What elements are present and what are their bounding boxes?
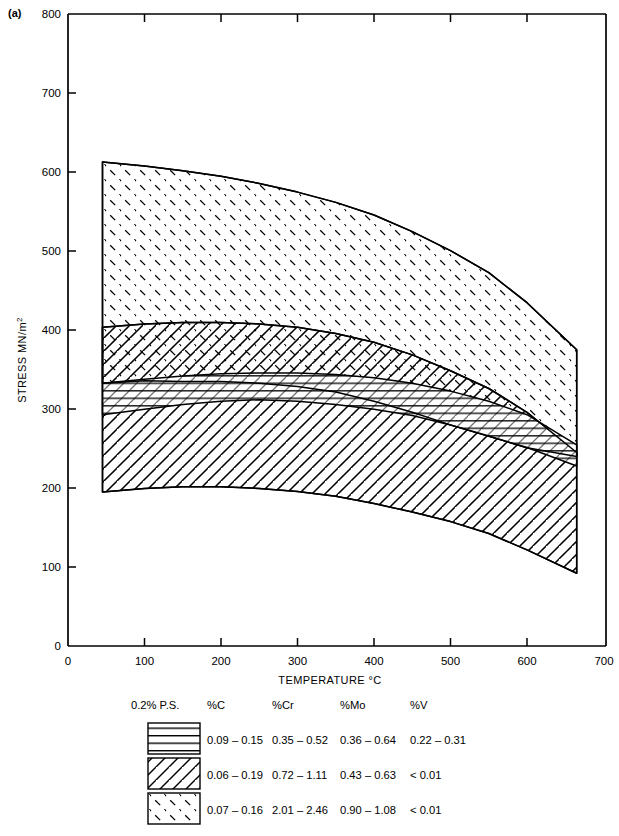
legend-header-cr: %Cr: [272, 699, 294, 711]
legend-row3-c: 0.07 – 0.16: [207, 804, 263, 816]
legend-row3-cr: 2.01 – 2.46: [272, 804, 328, 816]
legend-row: 0.09 – 0.15 0.35 – 0.52 0.36 – 0.64 0.22…: [148, 723, 466, 754]
y-tick-700: 700: [42, 87, 61, 99]
svg-text:STRESS MN/m2: STRESS MN/m2: [15, 317, 28, 403]
legend-swatch-dashed-diagonal: [148, 793, 200, 824]
x-axis-title: TEMPERATURE °C: [278, 674, 381, 686]
y-tick-400: 400: [42, 324, 61, 336]
x-tick-500: 500: [441, 655, 460, 667]
y-axis-title: STRESS MN/m2: [15, 317, 28, 403]
figure-panel-a: (a): [0, 0, 619, 836]
y-tick-800: 800: [42, 8, 61, 20]
x-tick-200: 200: [211, 655, 230, 667]
x-axis-tick-labels: 0 100 200 300 400 500 600 700: [65, 655, 614, 667]
y-axis-ticks: [68, 93, 76, 567]
legend-row2-v: < 0.01: [410, 769, 441, 781]
legend-header-mo: %Mo: [340, 699, 366, 711]
legend-row1-v: 0.22 – 0.31: [410, 734, 466, 746]
legend-swatch-horizontal-lines: [148, 723, 200, 754]
legend-row1-cr: 0.35 – 0.52: [272, 734, 328, 746]
y-tick-600: 600: [42, 166, 61, 178]
legend-row: 0.06 – 0.19 0.72 – 1.11 0.43 – 0.63 < 0.…: [148, 758, 441, 789]
legend-header-c: %C: [207, 699, 225, 711]
y-tick-0: 0: [55, 640, 61, 652]
y-tick-100: 100: [42, 561, 61, 573]
legend-header-row: 0.2% P.S. %C %Cr %Mo %V: [131, 699, 428, 711]
y-axis-title-sup: 2: [15, 317, 24, 322]
x-tick-600: 600: [517, 655, 536, 667]
x-tick-100: 100: [135, 655, 154, 667]
x-tick-700: 700: [594, 655, 613, 667]
chart-bands: [103, 162, 577, 573]
x-tick-300: 300: [288, 655, 307, 667]
y-tick-500: 500: [42, 245, 61, 257]
legend-swatch-solid-diagonal: [148, 758, 200, 789]
y-tick-200: 200: [42, 482, 61, 494]
legend-row1-mo: 0.36 – 0.64: [340, 734, 396, 746]
legend-row: 0.07 – 0.16 2.01 – 2.46 0.90 – 1.08 < 0.…: [148, 793, 441, 824]
x-tick-400: 400: [364, 655, 383, 667]
legend-header-v: %V: [410, 699, 428, 711]
y-tick-300: 300: [42, 403, 61, 415]
legend-row3-mo: 0.90 – 1.08: [340, 804, 396, 816]
legend-row2-mo: 0.43 – 0.63: [340, 769, 396, 781]
legend-row3-v: < 0.01: [410, 804, 441, 816]
legend-header-ps: 0.2% P.S.: [131, 699, 179, 711]
legend-row2-cr: 0.72 – 1.11: [272, 769, 327, 781]
legend: 0.2% P.S. %C %Cr %Mo %V 0.09 – 0.15 0.35…: [131, 699, 466, 824]
legend-row1-c: 0.09 – 0.15: [207, 734, 263, 746]
y-axis-tick-labels: 800 700 600 500 400 300 200 100 0: [42, 8, 61, 652]
legend-row2-c: 0.06 – 0.19: [207, 769, 263, 781]
y-axis-title-main: STRESS MN/m: [16, 322, 28, 403]
stress-temperature-chart: 800 700 600 500 400 300 200 100 0 0 100 …: [0, 0, 619, 836]
x-tick-0: 0: [65, 655, 71, 667]
